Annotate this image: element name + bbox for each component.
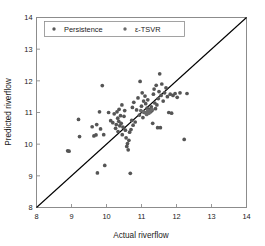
scatter-point bbox=[133, 120, 137, 124]
scatter-point bbox=[159, 126, 163, 130]
scatter-point bbox=[152, 87, 156, 91]
scatter-point bbox=[175, 95, 179, 99]
scatter-point bbox=[103, 164, 107, 168]
scatter-point bbox=[135, 108, 139, 112]
y-tick-label: 9 bbox=[28, 172, 32, 181]
scatter-point bbox=[141, 116, 145, 120]
x-tick-label: 11 bbox=[138, 212, 146, 221]
scatter-point bbox=[132, 101, 136, 105]
scatter-point bbox=[95, 123, 99, 127]
scatter-point bbox=[128, 171, 132, 175]
scatter-point bbox=[122, 114, 126, 118]
scatter-point bbox=[119, 121, 123, 125]
x-tick-label: 12 bbox=[172, 212, 180, 221]
scatter-point bbox=[127, 139, 131, 143]
scatter-point bbox=[146, 98, 150, 102]
scatter-point bbox=[111, 121, 115, 125]
scatter-point bbox=[124, 128, 128, 132]
scatter-point bbox=[166, 95, 170, 99]
scatter-point bbox=[116, 116, 120, 120]
scatter-point bbox=[170, 111, 174, 115]
y-tick-label: 13 bbox=[24, 45, 32, 54]
scatter-point bbox=[156, 97, 160, 101]
scatter-point bbox=[114, 123, 118, 127]
legend: Persistence ε-TSVR bbox=[45, 22, 185, 37]
scatter-point bbox=[98, 110, 102, 114]
scatter-point bbox=[126, 142, 130, 146]
scatter-plot-figure: 891011121314 891011121314 Actual riverfl… bbox=[0, 0, 265, 246]
scatter-point bbox=[129, 128, 133, 132]
scatter-point bbox=[155, 103, 159, 107]
x-tick-label: 13 bbox=[207, 212, 215, 221]
scatter-point bbox=[126, 148, 130, 152]
scatter-point bbox=[131, 123, 135, 127]
y-tick-label: 10 bbox=[24, 140, 32, 149]
x-tick-label: 14 bbox=[242, 212, 250, 221]
y-tick-label: 8 bbox=[28, 203, 32, 212]
scatter-point bbox=[67, 149, 71, 153]
scatter-point bbox=[107, 111, 111, 115]
scatter-point bbox=[150, 107, 154, 111]
scatter-point bbox=[161, 99, 165, 103]
scatter-point bbox=[116, 130, 120, 134]
scatter-point bbox=[96, 171, 100, 175]
legend-marker-persistence bbox=[52, 27, 55, 30]
scatter-point bbox=[121, 125, 125, 129]
scatter-point bbox=[152, 92, 156, 96]
scatter-point bbox=[154, 107, 158, 111]
scatter-point bbox=[178, 91, 182, 95]
scatter-point bbox=[94, 133, 98, 137]
legend-marker-tsvr bbox=[123, 27, 126, 30]
scatter-point bbox=[120, 103, 124, 107]
scatter-point bbox=[77, 118, 81, 122]
scatter-point bbox=[124, 136, 128, 140]
scatter-point bbox=[100, 84, 104, 88]
y-tick-label: 14 bbox=[24, 13, 32, 22]
scatter-point bbox=[173, 92, 177, 96]
x-tick-label: 8 bbox=[34, 212, 38, 221]
scatter-point bbox=[123, 109, 127, 113]
scatter-point bbox=[147, 111, 151, 115]
scatter-point bbox=[119, 114, 123, 118]
y-tick-label: 12 bbox=[24, 77, 32, 86]
legend-label-tsvr: ε-TSVR bbox=[135, 25, 160, 34]
scatter-point bbox=[144, 102, 148, 106]
scatter-point bbox=[117, 107, 121, 111]
scatter-point bbox=[140, 91, 144, 95]
scatter-point bbox=[138, 113, 142, 117]
scatter-point bbox=[143, 94, 147, 98]
scatter-point bbox=[99, 127, 103, 131]
scatter-point bbox=[160, 82, 164, 86]
x-axis-label: Actual riverflow bbox=[113, 231, 169, 240]
y-axis-label: Predicted riverflow bbox=[4, 78, 13, 145]
scatter-point bbox=[114, 126, 118, 130]
y-tick-label: 11 bbox=[25, 108, 33, 117]
scatter-point bbox=[131, 106, 135, 110]
scatter-point bbox=[157, 90, 161, 94]
scatter-point bbox=[182, 138, 186, 142]
scatter-point bbox=[154, 83, 158, 87]
scatter-point bbox=[138, 80, 142, 84]
scatter-point bbox=[185, 92, 189, 96]
legend-label-persistence: Persistence bbox=[64, 25, 103, 34]
scatter-point bbox=[130, 119, 134, 123]
scatter-point bbox=[151, 121, 155, 125]
scatter-point bbox=[78, 135, 82, 139]
plot-canvas: 891011121314 891011121314 Actual riverfl… bbox=[0, 0, 265, 246]
scatter-point bbox=[90, 125, 94, 129]
scatter-point bbox=[164, 86, 168, 90]
scatter-point bbox=[136, 96, 140, 100]
scatter-point bbox=[102, 133, 106, 137]
x-tick-label: 10 bbox=[102, 212, 110, 221]
scatter-point bbox=[140, 104, 144, 108]
scatter-point bbox=[158, 72, 162, 76]
scatter-point bbox=[159, 94, 163, 98]
scatter-point bbox=[163, 91, 167, 95]
x-tick-label: 9 bbox=[69, 212, 73, 221]
scatter-point bbox=[120, 133, 124, 137]
